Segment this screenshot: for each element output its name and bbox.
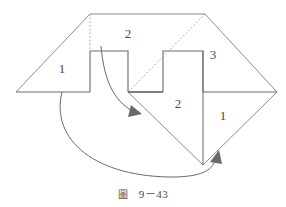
edge-bottom-left (128, 92, 203, 165)
arrows-group (60, 46, 222, 177)
region-labels-group: 1 2 3 2 1 (59, 26, 227, 123)
tab-one-outline (90, 51, 128, 92)
tab-two-outline (163, 51, 203, 92)
arrow-lower-fold-icon (60, 92, 216, 177)
figure-drawing: 1 2 3 2 1 (0, 0, 286, 207)
edge-bottom-right (203, 92, 277, 165)
caption-mark-glyph: 圖 (118, 186, 129, 201)
label-top-2: 2 (125, 26, 132, 41)
label-left-1: 1 (59, 61, 66, 76)
edge-top-left (16, 14, 90, 92)
figure-container: 1 2 3 2 1 圖 9－43 (0, 0, 286, 207)
arrow-upper-fold-icon (101, 46, 134, 112)
caption-number: 9－43 (139, 185, 169, 201)
fold-lines-group (90, 14, 205, 92)
label-lower-1: 1 (220, 108, 227, 123)
arrow-upper-head-icon (128, 105, 142, 117)
label-lower-2: 2 (175, 96, 182, 111)
dotted-fold-diagonal (128, 14, 205, 92)
outline-group (16, 14, 277, 165)
label-right-3: 3 (210, 47, 217, 62)
baseline-and-tabs-group (16, 51, 277, 165)
figure-caption: 圖 9－43 (0, 185, 286, 201)
